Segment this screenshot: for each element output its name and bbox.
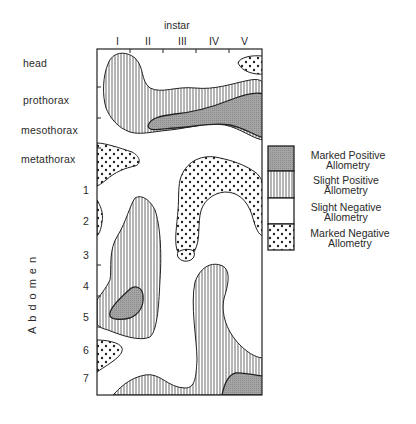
legend-swatch-slight-positive [268, 171, 294, 198]
instar-label-4: IV [209, 35, 219, 47]
abdomen-segment-5: 5 [83, 311, 89, 323]
legend-label-marked-positive: Marked PositiveAllometry [298, 150, 398, 170]
marked-negative-region-metathorax [97, 143, 139, 186]
abdomen-segment-3: 3 [83, 249, 89, 261]
segment-label-prothorax: prothorax [23, 94, 69, 106]
marked-negative-region-head-v [238, 56, 264, 74]
instar-label-2: II [145, 35, 151, 47]
marked-negative-region-abdomen-6 [97, 340, 122, 372]
legend-swatch-marked-positive [268, 146, 294, 171]
abdomen-segment-6: 6 [83, 344, 89, 356]
abdomen-segment-2: 2 [83, 215, 89, 227]
marked-negative-region-abdomen-2 [97, 200, 103, 236]
abdomen-segment-1: 1 [83, 184, 89, 196]
marked-negative-region-center [176, 157, 264, 256]
instar-label-3: III [178, 35, 187, 47]
instar-label-5: V [241, 35, 248, 47]
legend-label-marked-negative: Marked NegativeAllometry [298, 228, 402, 248]
segment-label-metathorax: metathorax [21, 153, 76, 165]
segment-label-mesothorax: mesothorax [21, 124, 78, 136]
abdomen-axis-label: Abdomen [26, 252, 38, 334]
x-axis-title: instar [164, 19, 190, 31]
legend-swatch-marked-negative [268, 224, 294, 250]
segment-label-head: head [23, 57, 47, 69]
marked-negative-region-small [177, 249, 194, 261]
legend-label-slight-positive: Slight PositiveAllometry [296, 175, 396, 195]
legend-swatch-slight-negative [268, 198, 294, 224]
instar-label-1: I [116, 35, 119, 47]
abdomen-segment-4: 4 [83, 280, 89, 292]
abdomen-segment-7: 7 [83, 372, 89, 384]
legend-label-slight-negative: Slight NegativeAllometry [296, 202, 396, 222]
